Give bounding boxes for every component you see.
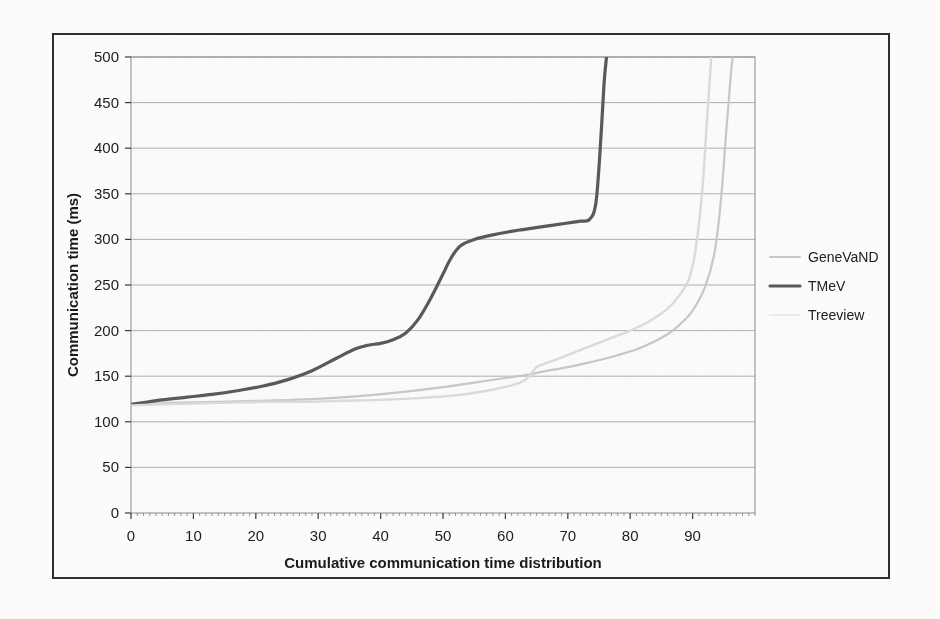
y-tick-label: 250 (94, 276, 119, 293)
chart-legend: GeneVaNDTMeVTreeview (770, 249, 879, 323)
x-tick-label: 90 (684, 527, 701, 544)
x-axis: 0102030405060708090 (127, 513, 701, 544)
y-tick-label: 50 (102, 458, 119, 475)
chart-figure: the communication number of the visualiz… (0, 0, 940, 619)
y-axis: 050100150200250300350400450500 (94, 48, 131, 521)
chart-svg: the communication number of the visualiz… (0, 0, 940, 619)
x-tick-label: 80 (622, 527, 639, 544)
x-tick-label: 20 (247, 527, 264, 544)
y-axis-title: Communication time (ms) (64, 193, 81, 377)
y-tick-label: 500 (94, 48, 119, 65)
y-tick-label: 400 (94, 139, 119, 156)
x-minor-ticks (131, 513, 755, 516)
legend-label: Treeview (808, 307, 865, 323)
y-tick-label: 350 (94, 185, 119, 202)
x-tick-label: 0 (127, 527, 135, 544)
legend-label: GeneVaND (808, 249, 879, 265)
y-tick-label: 300 (94, 230, 119, 247)
x-tick-label: 60 (497, 527, 514, 544)
x-tick-label: 10 (185, 527, 202, 544)
legend-label: TMeV (808, 278, 846, 294)
x-tick-label: 70 (559, 527, 576, 544)
y-tick-label: 200 (94, 322, 119, 339)
y-tick-label: 0 (111, 504, 119, 521)
x-tick-label: 40 (372, 527, 389, 544)
x-axis-title: Cumulative communication time distributi… (284, 554, 602, 571)
y-tick-label: 150 (94, 367, 119, 384)
x-tick-label: 50 (435, 527, 452, 544)
y-tick-label: 100 (94, 413, 119, 430)
x-tick-label: 30 (310, 527, 327, 544)
y-tick-label: 450 (94, 94, 119, 111)
